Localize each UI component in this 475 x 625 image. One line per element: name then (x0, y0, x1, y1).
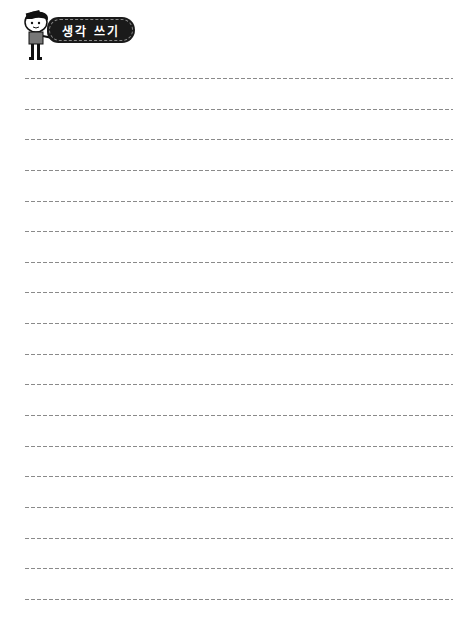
writing-line[interactable] (25, 170, 453, 201)
writing-line[interactable] (25, 262, 453, 293)
writing-area[interactable] (25, 78, 453, 625)
writing-line[interactable] (25, 538, 453, 569)
writing-line[interactable] (25, 109, 453, 140)
writing-line[interactable] (25, 507, 453, 538)
writing-line[interactable] (25, 384, 453, 415)
writing-line[interactable] (25, 201, 453, 232)
writing-line[interactable] (25, 78, 453, 109)
writing-line[interactable] (25, 354, 453, 385)
writing-line[interactable] (25, 415, 453, 446)
writing-line[interactable] (25, 323, 453, 354)
writing-line[interactable] (25, 568, 453, 599)
writing-line[interactable] (25, 599, 453, 625)
header: 생각 쓰기 (22, 10, 142, 64)
writing-line[interactable] (25, 446, 453, 477)
page-title: 생각 쓰기 (62, 22, 120, 39)
writing-line[interactable] (25, 231, 453, 262)
title-banner: 생각 쓰기 (47, 17, 135, 43)
writing-line[interactable] (25, 292, 453, 323)
writing-line[interactable] (25, 139, 453, 170)
writing-line[interactable] (25, 476, 453, 507)
